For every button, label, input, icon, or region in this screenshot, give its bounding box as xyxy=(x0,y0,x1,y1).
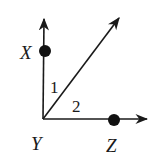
ray-diagonal xyxy=(43,18,119,119)
angle-diagram: X Y Z 1 2 xyxy=(0,0,153,158)
point-x-dot xyxy=(39,45,51,57)
label-y: Y xyxy=(31,133,44,154)
angle-2-label: 2 xyxy=(72,97,81,116)
ray-yx xyxy=(43,19,44,119)
label-z: Z xyxy=(106,135,117,156)
point-z-dot xyxy=(108,114,120,126)
angle-1-label: 1 xyxy=(50,78,59,97)
label-x: X xyxy=(19,42,33,63)
